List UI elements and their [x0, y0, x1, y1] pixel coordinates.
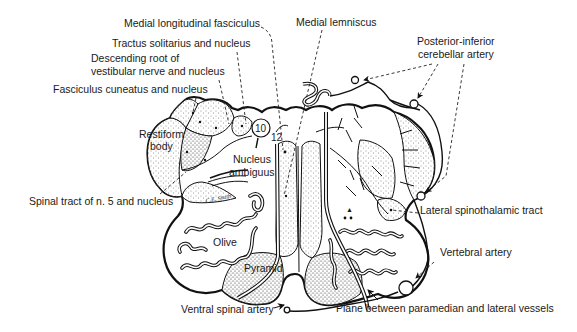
label-ventral-spinal-artery: Ventral spinal artery	[181, 303, 275, 315]
nerve-12-label: 12	[271, 132, 283, 143]
label-medial-lemniscus: Medial lemniscus	[296, 16, 377, 28]
label-medial-longitudinal-fasciculus: Medial longitudinal fasciculus	[124, 17, 260, 29]
medial-lemniscus-right	[300, 141, 322, 258]
pica-node-2	[410, 100, 418, 108]
svg-text:▲: ▲	[346, 206, 353, 213]
label-restiform-2: body	[150, 140, 174, 152]
label-tractus-solitarius: Tractus solitarius and nucleus	[112, 37, 251, 49]
label-fasciculus-cuneatus: Fasciculus cuneatus and nucleus	[53, 83, 208, 95]
label-nucleus-ambiguus-2: ambiguus	[229, 166, 275, 178]
label-restiform-1: Restiform	[139, 128, 184, 140]
label-lateral-spinothalamic: Lateral spinothalamic tract	[420, 204, 543, 216]
pica-node-1	[352, 77, 359, 84]
pica-node-3	[417, 192, 425, 200]
vertebral-artery-vessel	[399, 281, 413, 295]
label-pica-2: cerebellar artery	[418, 48, 495, 60]
medulla-diagram: 10 12 ▲	[0, 0, 577, 332]
label-nucleus-ambiguus-1: Nucleus	[233, 153, 271, 165]
label-descending-root-2: vestibular nerve and nucleus	[91, 65, 225, 77]
label-vertebral-artery: Vertebral artery	[440, 246, 513, 258]
label-plane-between: Plane between paramedian and lateral ves…	[336, 302, 554, 314]
label-descending-root-1: Descending root of	[91, 52, 179, 64]
ventral-spinal-artery-vessel	[284, 307, 290, 313]
olive-label: Olive	[213, 236, 237, 248]
label-spinal-tract-n5: Spinal tract of n. 5 and nucleus	[29, 195, 173, 207]
medulla-cross-section-svg: 10 12 ▲	[0, 0, 577, 332]
nerve-10-label: 10	[255, 123, 267, 134]
label-pica-1: Posterior-inferior	[417, 35, 495, 47]
label-pyramid: Pyramid	[244, 262, 283, 274]
